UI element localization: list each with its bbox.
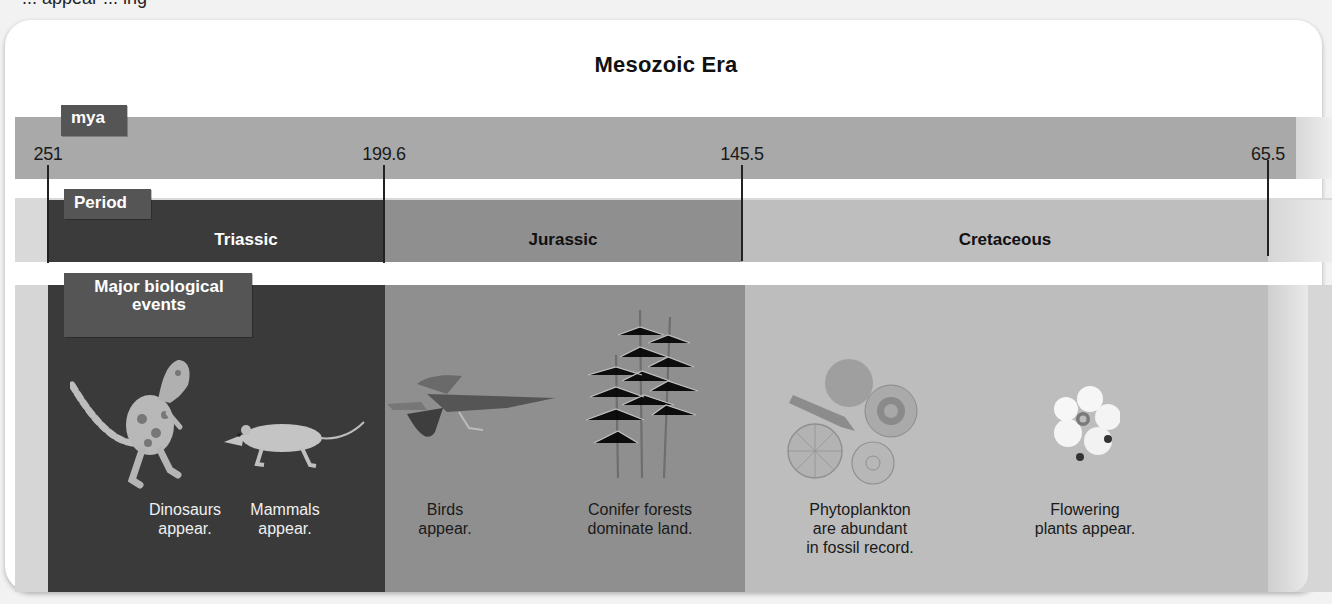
dinosaur-icon: [70, 355, 200, 490]
event-birds-line2: appear.: [400, 519, 490, 538]
mya-label: mya: [61, 105, 127, 136]
event-conifers: Conifer forests dominate land.: [560, 500, 720, 538]
tick-label-199-6: 199.6: [362, 144, 406, 165]
events-label: Major biological events: [64, 273, 252, 337]
period-cretaceous-label: Cretaceous: [959, 230, 1052, 250]
event-mammals: Mammals appear.: [225, 500, 345, 538]
mammal-icon: [222, 410, 367, 470]
period-jurassic-label: Jurassic: [529, 230, 598, 250]
tick-line-65-5: [1267, 160, 1269, 256]
event-mammals-line1: Mammals: [225, 500, 345, 519]
event-flowering: Flowering plants appear.: [1010, 500, 1160, 538]
tick-line-145-5: [741, 165, 743, 261]
mya-band: [15, 117, 1296, 179]
event-birds: Birds appear.: [400, 500, 490, 538]
event-birds-line1: Birds: [400, 500, 490, 519]
period-band-fade: [1268, 200, 1332, 262]
event-phytoplankton-line3: in fossil record.: [780, 538, 940, 557]
event-conifers-line1: Conifer forests: [560, 500, 720, 519]
mya-band-fade: [1296, 117, 1332, 179]
period-cretaceous: Cretaceous: [742, 200, 1268, 262]
period-label: Period: [64, 189, 151, 219]
event-flowering-line1: Flowering: [1010, 500, 1160, 519]
bird-icon: [387, 372, 559, 452]
events-band-fade: [1268, 285, 1308, 592]
event-flowering-line2: plants appear.: [1010, 519, 1160, 538]
flower-icon: [1050, 385, 1120, 465]
tick-label-251: 251: [33, 144, 62, 165]
event-phytoplankton: Phytoplankton are abundant in fossil rec…: [780, 500, 940, 558]
tick-line-251: [47, 165, 49, 263]
conifer-icon: [578, 305, 703, 480]
figure-title: Mesozoic Era: [0, 52, 1332, 78]
period-jurassic: Jurassic: [384, 200, 742, 262]
tick-line-199-6: [383, 165, 385, 263]
event-conifers-line2: dominate land.: [560, 519, 720, 538]
event-mammals-line2: appear.: [225, 519, 345, 538]
event-phytoplankton-line1: Phytoplankton: [780, 500, 940, 519]
phytoplankton-icon: [785, 355, 935, 485]
period-triassic-label: Triassic: [214, 230, 277, 250]
cropped-caption: ... appear ... ing: [0, 0, 440, 10]
event-phytoplankton-line2: are abundant: [780, 519, 940, 538]
tick-label-145-5: 145.5: [720, 144, 764, 165]
